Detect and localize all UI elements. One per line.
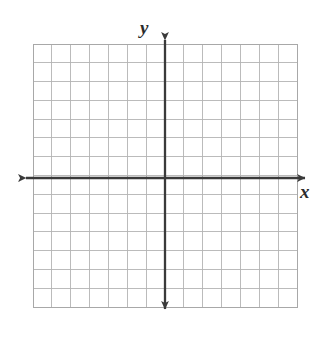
graph-svg [0,0,333,344]
y-axis-label: y [140,18,148,37]
x-axis-label: x [300,182,310,201]
coordinate-plane-figure: y x [0,0,333,344]
